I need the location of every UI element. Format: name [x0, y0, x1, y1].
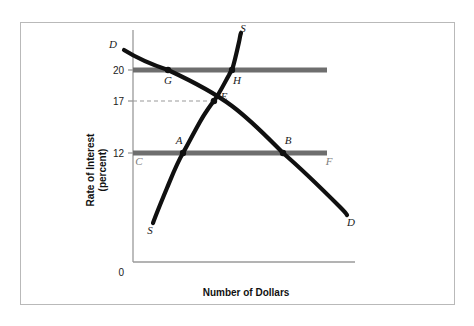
point-label-H: H: [232, 74, 242, 86]
point-label-E: E: [220, 90, 228, 102]
point-label-B: B: [285, 134, 292, 146]
point-label-F: F: [325, 155, 333, 167]
y-axis-ticks: [128, 70, 133, 153]
point-label-D-bottom: D: [346, 216, 355, 228]
point-label-S-top: S: [240, 22, 246, 34]
y-tick-label-17: 17: [113, 96, 125, 107]
x-axis-title: Number of Dollars: [203, 287, 290, 298]
y-axis-title-line1: Rate of Interest: [85, 133, 96, 206]
y-tick-label-12: 12: [113, 148, 125, 159]
point-marker-B: [280, 150, 286, 156]
supply-curve: [153, 33, 241, 223]
point-marker-G: [165, 67, 171, 73]
figure-root: 20 17 12 0 D S G H E A B C F S D Number …: [0, 0, 474, 326]
chart-canvas: 20 17 12 0 D S G H E A B C F S D Number …: [0, 0, 474, 326]
point-label-C: C: [135, 155, 143, 167]
point-label-G: G: [164, 74, 172, 86]
point-label-S-bottom: S: [147, 224, 153, 236]
point-marker-E: [211, 98, 217, 104]
point-label-D-top: D: [108, 38, 117, 50]
y-tick-label-20: 20: [113, 65, 125, 76]
y-axis-title-line2: (percent): [97, 149, 108, 192]
origin-label: 0: [118, 267, 124, 278]
axes-group: [133, 30, 355, 262]
point-marker-A: [180, 150, 186, 156]
point-marker-H: [229, 67, 235, 73]
point-label-A: A: [175, 134, 183, 146]
